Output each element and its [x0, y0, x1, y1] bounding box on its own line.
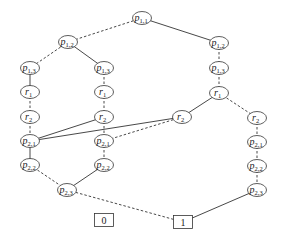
- terminal-label: 0: [102, 215, 107, 226]
- terminal-node-1: 1: [174, 216, 193, 229]
- decision-node: p2,1: [248, 136, 267, 149]
- decision-node: p1,2: [59, 36, 78, 49]
- decision-node: p1,3: [210, 62, 229, 75]
- decision-node: p1,3: [95, 62, 114, 75]
- low-edge: [67, 190, 183, 222]
- terminals-layer: 01: [95, 214, 193, 229]
- decision-node: p1,1: [133, 12, 152, 25]
- decision-node: r2: [248, 112, 267, 125]
- decision-node: r2: [95, 111, 114, 124]
- high-edge: [183, 190, 257, 222]
- decision-node: r1: [21, 86, 40, 99]
- decision-node: r2: [173, 111, 192, 124]
- low-edge: [68, 18, 142, 42]
- decision-node: p2,1: [21, 135, 40, 148]
- decision-node: p2,2: [248, 160, 267, 173]
- diagram-canvas: p1,1p1,2p1,2p1,3p1,3p1,3r1r1r1r2r2r2r2p2…: [0, 0, 281, 242]
- decision-node: r2: [21, 111, 40, 124]
- decision-node: p2,2: [21, 159, 40, 172]
- terminal-node-0: 0: [95, 214, 114, 227]
- high-edge: [30, 117, 104, 141]
- low-edge: [104, 117, 182, 141]
- decision-node: p1,2: [210, 37, 229, 50]
- nodes-layer: p1,1p1,2p1,2p1,3p1,3p1,3r1r1r1r2r2r2r2p2…: [21, 12, 267, 197]
- decision-node: p2,2: [95, 159, 114, 172]
- decision-node: p2,3: [58, 184, 77, 197]
- high-edge: [142, 18, 219, 43]
- decision-node: r1: [95, 86, 114, 99]
- decision-node: r1: [210, 87, 229, 100]
- terminal-label: 1: [181, 217, 186, 228]
- bdd-diagram: p1,1p1,2p1,2p1,3p1,3p1,3r1r1r1r2r2r2r2p2…: [0, 0, 281, 242]
- decision-node: p1,3: [21, 62, 40, 75]
- decision-node: p2,3: [248, 184, 267, 197]
- decision-node: p2,1: [95, 135, 114, 148]
